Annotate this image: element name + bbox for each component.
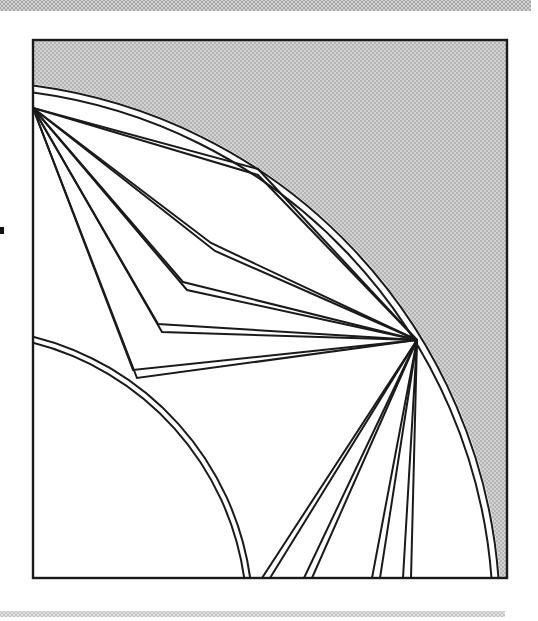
geometry-figure xyxy=(0,0,538,621)
bottom-scan-rule xyxy=(0,611,505,617)
figure-interior xyxy=(33,40,507,578)
scanned-book-page xyxy=(0,0,538,621)
